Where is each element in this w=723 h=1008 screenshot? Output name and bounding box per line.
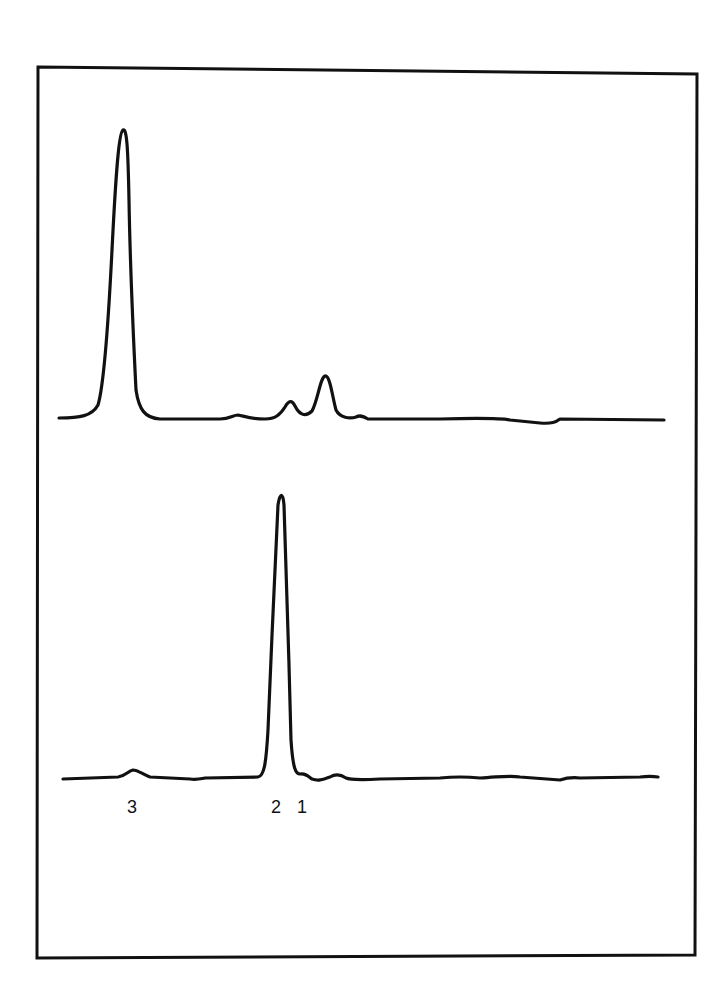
upper-chromatogram-trace [59, 130, 664, 423]
figure-frame [37, 67, 697, 958]
peak-label-3: 3 [127, 797, 137, 818]
lower-chromatogram-trace [63, 495, 658, 780]
peak-label-2: 2 [271, 797, 281, 818]
peak-label-1: 1 [297, 797, 307, 818]
chromatogram-figure [0, 0, 723, 1008]
